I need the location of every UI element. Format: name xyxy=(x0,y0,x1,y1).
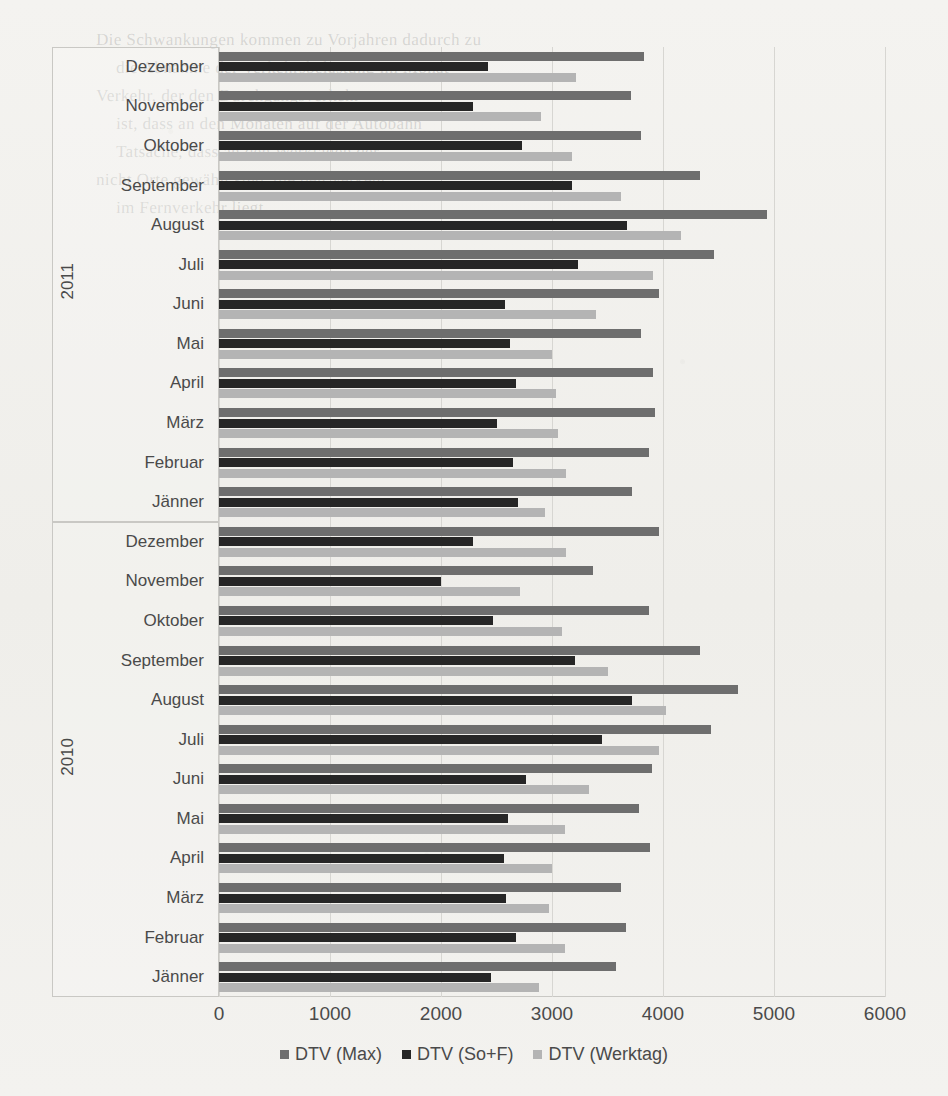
category-label: August xyxy=(151,215,204,235)
legend-label: DTV (Werktag) xyxy=(548,1044,668,1065)
bar-werk xyxy=(219,825,565,834)
bar-werk xyxy=(219,508,545,517)
bar-sof xyxy=(219,894,506,903)
bar-max xyxy=(219,52,644,61)
bar-sof xyxy=(219,458,513,467)
bar-werk xyxy=(219,350,552,359)
bar-max xyxy=(219,408,655,417)
value-tick-label: 6000 xyxy=(864,1003,906,1025)
bar-werk xyxy=(219,983,539,992)
bar-max xyxy=(219,329,641,338)
value-tick-label: 1000 xyxy=(309,1003,351,1025)
bar-max xyxy=(219,962,616,971)
legend-label: DTV (Max) xyxy=(295,1044,382,1065)
bar-werk xyxy=(219,73,576,82)
bar-max xyxy=(219,725,711,734)
bar-sof xyxy=(219,498,518,507)
value-tick-label: 2000 xyxy=(420,1003,462,1025)
bar-sof xyxy=(219,933,516,942)
category-axis-labels: DezemberNovemberOktoberSeptemberAugustJu… xyxy=(52,47,212,997)
legend-item[interactable]: DTV (Max) xyxy=(280,1044,382,1065)
bar-werk xyxy=(219,904,549,913)
bar-sof xyxy=(219,379,516,388)
bar-werk xyxy=(219,112,541,121)
bar-max xyxy=(219,131,641,140)
bar-max xyxy=(219,210,767,219)
category-label: Juni xyxy=(173,294,204,314)
bar-sof xyxy=(219,300,505,309)
legend-item[interactable]: DTV (So+F) xyxy=(402,1044,514,1065)
bar-werk xyxy=(219,469,566,478)
bar-sof xyxy=(219,181,572,190)
bar-werk xyxy=(219,627,562,636)
category-label: Jänner xyxy=(152,967,204,987)
bar-sof xyxy=(219,339,510,348)
bar-werk xyxy=(219,231,681,240)
bar-sof xyxy=(219,62,488,71)
category-label: Juli xyxy=(178,730,204,750)
year-label: 2011 xyxy=(58,263,78,300)
bar-sof xyxy=(219,141,522,150)
bar-sof xyxy=(219,102,473,111)
bar-werk xyxy=(219,389,556,398)
bar-werk xyxy=(219,706,666,715)
bar-max xyxy=(219,606,649,615)
bar-sof xyxy=(219,854,504,863)
category-label: Juli xyxy=(178,255,204,275)
value-axis-tick-labels: 0100020003000400050006000 xyxy=(0,1003,948,1031)
bar-max xyxy=(219,250,714,259)
category-label: August xyxy=(151,690,204,710)
category-label: Februar xyxy=(144,928,204,948)
value-tick-label: 4000 xyxy=(642,1003,684,1025)
bar-werk xyxy=(219,429,558,438)
bar-max xyxy=(219,448,649,457)
bar-sof xyxy=(219,616,493,625)
category-label: April xyxy=(170,373,204,393)
bar-max xyxy=(219,923,626,932)
category-label: Februar xyxy=(144,453,204,473)
legend-label: DTV (So+F) xyxy=(417,1044,514,1065)
value-tick-label: 0 xyxy=(214,1003,225,1025)
bar-max xyxy=(219,171,700,180)
bar-max xyxy=(219,91,631,100)
category-label: Mai xyxy=(177,334,204,354)
bar-werk xyxy=(219,152,572,161)
chart-legend: DTV (Max)DTV (So+F)DTV (Werktag) xyxy=(0,1044,948,1065)
year-label: 2010 xyxy=(58,738,78,776)
bar-max xyxy=(219,646,700,655)
bar-max xyxy=(219,685,738,694)
category-label: Dezember xyxy=(126,57,204,77)
bar-sof xyxy=(219,973,491,982)
category-label: März xyxy=(166,413,204,433)
bar-max xyxy=(219,487,632,496)
bar-max xyxy=(219,764,652,773)
bar-werk xyxy=(219,310,596,319)
bar-sof xyxy=(219,577,441,586)
bar-werk xyxy=(219,785,589,794)
bar-werk xyxy=(219,587,520,596)
bar-sof xyxy=(219,696,632,705)
bar-sof xyxy=(219,735,602,744)
bar-werk xyxy=(219,944,565,953)
bar-sof xyxy=(219,656,575,665)
category-label: Juni xyxy=(173,769,204,789)
legend-item[interactable]: DTV (Werktag) xyxy=(533,1044,668,1065)
bar-sof xyxy=(219,775,526,784)
gridline xyxy=(774,47,775,997)
bar-werk xyxy=(219,548,566,557)
bar-sof xyxy=(219,419,497,428)
category-label: November xyxy=(126,571,204,591)
value-tick-label: 3000 xyxy=(531,1003,573,1025)
bar-max xyxy=(219,883,621,892)
bar-sof xyxy=(219,221,627,230)
legend-swatch-icon xyxy=(402,1050,411,1059)
bar-werk xyxy=(219,864,552,873)
bar-werk xyxy=(219,667,608,676)
bar-max xyxy=(219,527,659,536)
category-label: Oktober xyxy=(144,136,204,156)
gridline xyxy=(885,47,886,997)
category-label: September xyxy=(121,651,204,671)
bar-max xyxy=(219,843,650,852)
bar-max xyxy=(219,368,653,377)
dtv-bar-chart: Die Schwankungen kommen zu Vorjahren dad… xyxy=(0,0,948,1096)
